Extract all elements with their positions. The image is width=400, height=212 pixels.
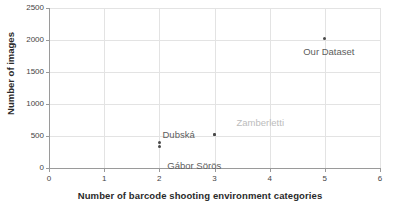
y-tick-label: 0 <box>0 164 44 172</box>
gridline-vertical <box>215 8 216 168</box>
x-tick-mark <box>325 169 326 172</box>
y-tick-mark <box>46 104 49 105</box>
x-tick-mark <box>270 169 271 172</box>
y-tick-mark <box>46 40 49 41</box>
x-axis-title: Number of barcode shooting environment c… <box>0 190 400 201</box>
plot-area <box>49 8 380 168</box>
x-tick-label: 4 <box>255 175 285 183</box>
x-tick-label: 1 <box>89 175 119 183</box>
data-point-label: Zamberletti <box>237 118 285 128</box>
data-point <box>158 141 161 144</box>
x-tick-label: 3 <box>200 175 230 183</box>
scatter-chart: 050010001500200025000123456 Our DatasetZ… <box>0 0 400 212</box>
y-axis-title: Number of images <box>5 14 16 134</box>
x-tick-mark <box>380 169 381 172</box>
x-tick-label: 5 <box>310 175 340 183</box>
gridline-vertical <box>270 8 271 168</box>
x-tick-label: 2 <box>144 175 174 183</box>
gridline-vertical <box>325 8 326 168</box>
x-tick-mark <box>159 169 160 172</box>
data-point-label: Gábor Sörös <box>167 161 221 171</box>
x-tick-mark <box>104 169 105 172</box>
gridline-vertical <box>380 8 381 168</box>
gridline-vertical <box>159 8 160 168</box>
y-axis-line <box>49 8 50 169</box>
y-tick-mark <box>46 72 49 73</box>
y-tick-mark <box>46 136 49 137</box>
x-tick-label: 0 <box>34 175 64 183</box>
y-tick-mark <box>46 8 49 9</box>
y-tick-label: 2500 <box>0 4 44 12</box>
x-tick-label: 6 <box>365 175 395 183</box>
gridline-vertical <box>104 8 105 168</box>
x-tick-mark <box>49 169 50 172</box>
data-point-label: Dubská <box>163 130 195 140</box>
data-point-label: Our Dataset <box>303 47 354 57</box>
